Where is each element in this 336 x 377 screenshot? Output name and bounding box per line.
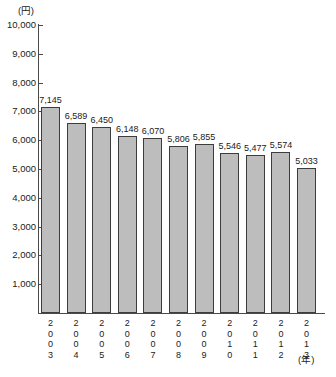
bar-value-label: 6,589 bbox=[63, 112, 90, 121]
x-category-digit: 9 bbox=[195, 350, 214, 361]
x-category-digit: 0 bbox=[41, 329, 60, 340]
x-category-digit: 2 bbox=[118, 318, 137, 329]
bar-value-label: 6,450 bbox=[88, 116, 115, 125]
x-category-digit: 2 bbox=[297, 318, 316, 329]
x-category-digit: 2 bbox=[271, 350, 290, 361]
x-category-label: 2004 bbox=[67, 318, 86, 360]
bar bbox=[67, 123, 86, 313]
x-category-label: 2012 bbox=[271, 318, 290, 360]
y-tick-label-text: 2,000 bbox=[2, 250, 36, 260]
y-tick-label: 8,000 bbox=[0, 78, 36, 88]
y-tick-label: 6,000 bbox=[0, 135, 36, 145]
x-category-digit: 0 bbox=[41, 339, 60, 350]
x-category-digit: 0 bbox=[220, 329, 239, 340]
x-category-digit: 0 bbox=[195, 329, 214, 340]
bar bbox=[195, 144, 214, 313]
y-tick-label: 10,000 bbox=[0, 20, 36, 30]
y-tick-label: 7,000 bbox=[0, 106, 36, 116]
x-category-digit: 2 bbox=[92, 318, 111, 329]
y-tick-label: 2,000 bbox=[0, 250, 36, 260]
x-category-digit: 0 bbox=[92, 329, 111, 340]
x-category-digit: 0 bbox=[220, 350, 239, 361]
x-category-digit: 0 bbox=[169, 339, 188, 350]
bar-value-label: 5,546 bbox=[216, 142, 243, 151]
y-tick-label-text: 4,000 bbox=[2, 193, 36, 203]
bar bbox=[92, 127, 111, 313]
bar-value-label: 6,070 bbox=[139, 127, 166, 136]
y-tick-mark bbox=[39, 83, 43, 84]
x-category-digit: 0 bbox=[297, 329, 316, 340]
x-category-digit: 0 bbox=[271, 329, 290, 340]
x-category-digit: 3 bbox=[41, 350, 60, 361]
x-category-digit: 5 bbox=[92, 350, 111, 361]
x-category-digit: 7 bbox=[143, 350, 162, 361]
x-category-digit: 0 bbox=[169, 329, 188, 340]
bar bbox=[246, 155, 265, 313]
x-category-digit: 0 bbox=[118, 339, 137, 350]
bar bbox=[118, 136, 137, 313]
x-category-digit: 0 bbox=[143, 329, 162, 340]
x-category-digit: 1 bbox=[220, 339, 239, 350]
x-category-label: 2003 bbox=[41, 318, 60, 360]
bar-value-label: 5,574 bbox=[267, 141, 294, 150]
y-tick-label: 1,000 bbox=[0, 279, 36, 289]
x-category-label: 2011 bbox=[246, 318, 265, 360]
y-tick-label-text: 7,000 bbox=[2, 106, 36, 116]
x-category-label: 2010 bbox=[220, 318, 239, 360]
bar bbox=[169, 146, 188, 313]
bar-value-label: 5,855 bbox=[191, 133, 218, 142]
x-axis-unit-label: (年) bbox=[298, 352, 314, 366]
y-tick-label-text: 9,000 bbox=[2, 49, 36, 59]
x-category-digit: 0 bbox=[143, 339, 162, 350]
x-category-digit: 2 bbox=[271, 318, 290, 329]
bar bbox=[297, 168, 316, 313]
x-category-digit: 1 bbox=[297, 339, 316, 350]
bar bbox=[143, 138, 162, 313]
x-category-digit: 0 bbox=[246, 329, 265, 340]
x-category-digit: 1 bbox=[246, 339, 265, 350]
bar-value-label: 7,145 bbox=[37, 96, 64, 105]
x-category-digit: 0 bbox=[92, 339, 111, 350]
y-tick-label: 5,000 bbox=[0, 164, 36, 174]
bar-chart: (円) 10,0009,0008,0007,0006,0005,0004,000… bbox=[0, 0, 336, 377]
x-category-digit: 8 bbox=[169, 350, 188, 361]
y-tick-label-text: 3,000 bbox=[2, 222, 36, 232]
y-tick-label: 3,000 bbox=[0, 222, 36, 232]
bar-value-label: 5,033 bbox=[293, 157, 320, 166]
x-category-digit: 2 bbox=[143, 318, 162, 329]
x-category-digit: 0 bbox=[118, 329, 137, 340]
y-axis-unit-label: (円) bbox=[18, 3, 34, 17]
y-tick-label-text: 10,000 bbox=[2, 20, 36, 30]
x-category-label: 2006 bbox=[118, 318, 137, 360]
x-category-label: 2008 bbox=[169, 318, 188, 360]
x-axis-line bbox=[38, 313, 325, 314]
bar bbox=[41, 107, 60, 313]
x-category-digit: 2 bbox=[41, 318, 60, 329]
y-tick-label-text: 6,000 bbox=[2, 135, 36, 145]
x-category-digit: 2 bbox=[195, 318, 214, 329]
x-category-digit: 0 bbox=[67, 339, 86, 350]
y-tick-label: 9,000 bbox=[0, 49, 36, 59]
y-tick-label-text: 8,000 bbox=[2, 78, 36, 88]
x-category-digit: 0 bbox=[195, 339, 214, 350]
bar-value-label: 5,806 bbox=[165, 135, 192, 144]
y-tick-label: 4,000 bbox=[0, 193, 36, 203]
bar bbox=[271, 152, 290, 313]
y-tick-mark bbox=[39, 25, 43, 26]
x-category-digit: 0 bbox=[67, 329, 86, 340]
x-category-label: 2005 bbox=[92, 318, 111, 360]
bar-value-label: 5,477 bbox=[242, 144, 269, 153]
x-category-digit: 4 bbox=[67, 350, 86, 361]
x-category-digit: 2 bbox=[169, 318, 188, 329]
x-category-digit: 2 bbox=[220, 318, 239, 329]
x-category-digit: 1 bbox=[246, 350, 265, 361]
bar-value-label: 6,148 bbox=[114, 125, 141, 134]
x-category-label: 2007 bbox=[143, 318, 162, 360]
x-category-label: 2009 bbox=[195, 318, 214, 360]
x-category-digit: 6 bbox=[118, 350, 137, 361]
x-category-digit: 2 bbox=[246, 318, 265, 329]
x-category-digit: 2 bbox=[67, 318, 86, 329]
x-category-digit: 1 bbox=[271, 339, 290, 350]
y-tick-label-text: 1,000 bbox=[2, 279, 36, 289]
y-tick-mark bbox=[39, 54, 43, 55]
